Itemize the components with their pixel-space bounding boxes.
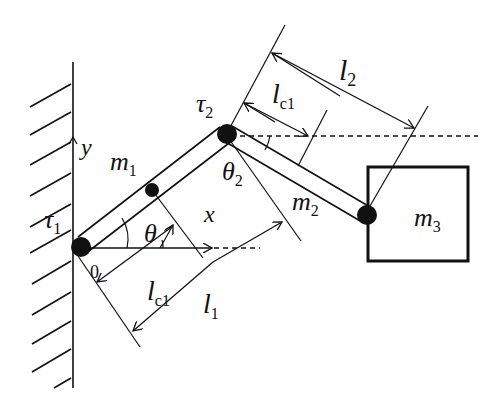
lc1-lower-label: lc1 <box>147 275 170 309</box>
lc1-lower-dimension <box>97 226 173 282</box>
tau2-label: τ2 <box>196 89 213 121</box>
manipulator-diagram: y x <box>0 0 502 411</box>
tau1-label: τ1 <box>44 205 61 237</box>
m1-label: m1 <box>110 147 137 179</box>
theta-label: θ <box>144 219 157 248</box>
m3-label: m3 <box>414 203 441 235</box>
l2-label: l2 <box>339 53 356 90</box>
joint-1 <box>71 237 91 257</box>
l1-label: l1 <box>203 288 219 322</box>
y-axis-label: y <box>79 134 92 160</box>
origin-label: 0 <box>90 262 99 282</box>
joint-3 <box>357 205 377 225</box>
x-axis-label: x <box>203 201 215 227</box>
mass-1-centroid <box>145 183 159 197</box>
theta-arrow <box>160 225 173 248</box>
m2-label: m2 <box>292 187 319 219</box>
theta2-label: θ2 <box>222 157 243 189</box>
lc1-upper-label: lc1 <box>272 78 295 112</box>
joint-2 <box>217 124 237 144</box>
